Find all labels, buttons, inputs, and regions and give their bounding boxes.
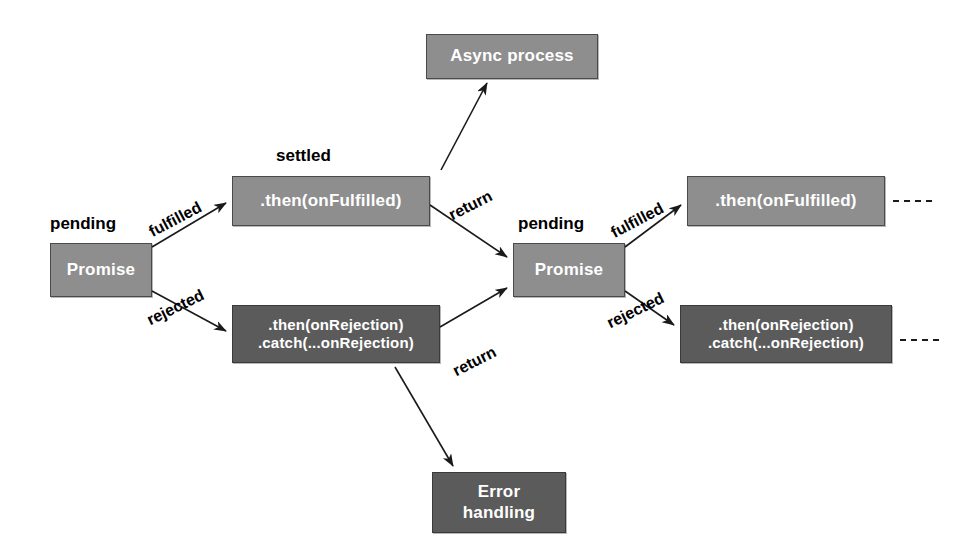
node-error-handling: Errorhandling: [432, 472, 566, 533]
state-label-pending-2: pending: [518, 214, 584, 234]
node-then-rejected-1: .then(onRejection).catch(...onRejection): [232, 305, 440, 363]
node-label-line: .then(onFulfilled): [260, 191, 401, 212]
node-label-line: Error: [478, 482, 521, 503]
node-promise-1: Promise: [50, 243, 152, 297]
node-then-fulfilled-1: .then(onFulfilled): [232, 176, 430, 226]
edge-then-rejected-to-error: [395, 367, 453, 466]
node-label-line: .then(onRejection): [718, 316, 853, 334]
edge-then-rejected-to-promise2: [440, 288, 507, 327]
diagram-canvas: Async processPromise.then(onFulfilled).t…: [0, 0, 980, 549]
node-label-line: .catch(...onRejection): [258, 334, 414, 352]
node-async-process: Async process: [426, 34, 598, 79]
state-label-pending-1: pending: [50, 214, 116, 234]
node-label-line: handling: [463, 503, 535, 524]
edge-then-fulfilled-to-async: [441, 83, 487, 170]
node-label-line: Promise: [535, 260, 604, 281]
node-label-line: Promise: [67, 260, 136, 281]
node-promise-2: Promise: [513, 243, 625, 297]
node-label-line: .then(onFulfilled): [715, 191, 856, 212]
node-then-fulfilled-2: .then(onFulfilled): [687, 176, 885, 226]
state-label-settled: settled: [276, 146, 331, 166]
node-label-line: .catch(...onRejection): [708, 334, 864, 352]
node-label-line: Async process: [450, 46, 574, 67]
node-label-line: .then(onRejection): [268, 316, 403, 334]
node-then-rejected-2: .then(onRejection).catch(...onRejection): [680, 305, 892, 363]
